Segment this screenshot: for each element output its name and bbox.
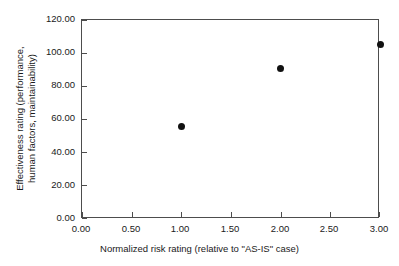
y-tick-label: 20.00	[5, 180, 75, 190]
data-point	[277, 65, 284, 72]
x-axis-title: Normalized risk rating (relative to "AS-…	[0, 243, 399, 254]
plot-area	[81, 19, 379, 218]
x-tick-label: 3.00	[349, 224, 399, 234]
data-point	[377, 41, 384, 48]
y-tick-label: 100.00	[5, 47, 75, 57]
chart-figure: 0.00 20.00 40.00 60.00 80.00 100.00 120.…	[0, 0, 399, 266]
data-point	[178, 123, 185, 130]
y-tick-label: 60.00	[5, 113, 75, 123]
y-tick-label: 40.00	[5, 147, 75, 157]
y-tick-label: 120.00	[5, 14, 75, 24]
x-axis-tick	[379, 212, 380, 217]
y-tick-label: 0.00	[5, 213, 75, 223]
y-axis-tick	[82, 218, 87, 219]
y-tick-label: 80.00	[5, 80, 75, 90]
data-points-layer	[82, 20, 378, 217]
